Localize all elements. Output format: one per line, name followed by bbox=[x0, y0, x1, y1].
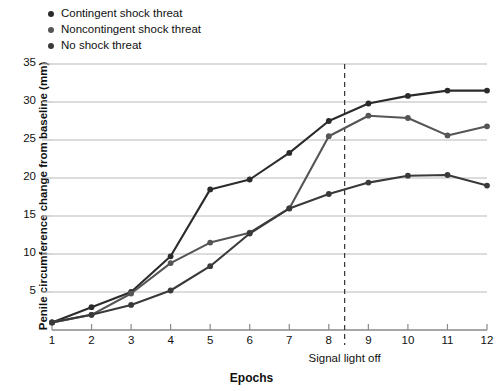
y-tick-label: 20 bbox=[10, 170, 36, 182]
data-point bbox=[168, 288, 174, 294]
data-point bbox=[366, 180, 372, 186]
data-point bbox=[128, 302, 134, 308]
data-point bbox=[89, 312, 95, 318]
y-tick-label: 25 bbox=[10, 132, 36, 144]
y-tick-label: 15 bbox=[10, 208, 36, 220]
x-tick-label: 8 bbox=[317, 334, 341, 346]
chart-svg bbox=[0, 0, 503, 391]
data-point bbox=[366, 113, 372, 119]
data-point bbox=[326, 133, 332, 139]
data-point bbox=[207, 263, 213, 269]
x-tick-label: 7 bbox=[277, 334, 301, 346]
x-tick-label: 6 bbox=[238, 334, 262, 346]
data-point bbox=[326, 118, 332, 124]
x-tick-label: 4 bbox=[159, 334, 183, 346]
data-point bbox=[207, 240, 213, 246]
data-point bbox=[326, 191, 332, 197]
signal-light-off-annotation: Signal light off bbox=[309, 352, 381, 364]
data-point bbox=[405, 173, 411, 179]
data-point bbox=[484, 123, 490, 129]
chart-figure: Contingent shock threat Noncontingent sh… bbox=[0, 0, 503, 391]
plot-area: 5101520253035123456789101112 Signal ligh… bbox=[0, 0, 503, 391]
x-tick-label: 2 bbox=[80, 334, 104, 346]
data-point bbox=[445, 172, 451, 178]
data-point bbox=[286, 150, 292, 156]
x-tick-label: 3 bbox=[119, 334, 143, 346]
series-line-0 bbox=[52, 91, 487, 323]
data-point bbox=[405, 115, 411, 121]
data-point bbox=[484, 88, 490, 94]
y-tick-label: 30 bbox=[10, 94, 36, 106]
y-tick-label: 35 bbox=[10, 56, 36, 68]
series-line-1 bbox=[52, 116, 487, 323]
x-tick-label: 9 bbox=[356, 334, 380, 346]
data-point bbox=[445, 88, 451, 94]
data-point bbox=[247, 177, 253, 183]
data-point bbox=[128, 291, 134, 297]
data-point bbox=[49, 320, 55, 326]
data-point bbox=[366, 101, 372, 107]
x-tick-label: 1 bbox=[40, 334, 64, 346]
x-tick-label: 10 bbox=[396, 334, 420, 346]
data-point bbox=[89, 304, 95, 310]
data-point bbox=[484, 183, 490, 189]
data-point bbox=[405, 93, 411, 99]
data-point bbox=[168, 253, 174, 259]
data-point bbox=[168, 260, 174, 266]
data-point bbox=[286, 206, 292, 212]
x-tick-label: 11 bbox=[435, 334, 459, 346]
y-tick-label: 5 bbox=[10, 284, 36, 296]
x-tick-label: 5 bbox=[198, 334, 222, 346]
y-tick-label: 10 bbox=[10, 246, 36, 258]
data-point bbox=[445, 133, 451, 139]
data-point bbox=[247, 231, 253, 237]
x-tick-label: 12 bbox=[475, 334, 499, 346]
data-point bbox=[207, 187, 213, 193]
